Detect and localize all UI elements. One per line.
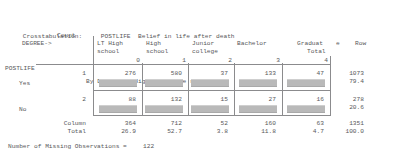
cell-r1-c2-redaction-bar bbox=[191, 105, 229, 113]
row-total-header-line2: Total bbox=[307, 48, 326, 56]
cell-r1-c3-count: 27 bbox=[240, 96, 276, 103]
column-variable-arrow-label: DEGREE-> bbox=[22, 40, 52, 47]
column-header-2-code: 2 bbox=[210, 57, 232, 64]
column-total-c2-percent: 3.8 bbox=[192, 128, 228, 135]
cell-r0-c4-count: 47 bbox=[288, 70, 324, 77]
row-1-code: 2 bbox=[60, 96, 86, 103]
row-variable-name: POSTLIFE bbox=[101, 33, 131, 40]
column-header-1-line1: High bbox=[146, 40, 161, 48]
column-total-label-line1: Column bbox=[40, 120, 86, 127]
cell-r0-c1-redaction-bar bbox=[145, 79, 183, 87]
column-total-c2-count: 52 bbox=[192, 120, 228, 127]
cell-r1-c1-count: 132 bbox=[146, 96, 182, 103]
row-variable-stub-label: POSTLIFE bbox=[5, 65, 35, 72]
column-total-c4-percent: 4.7 bbox=[288, 128, 324, 135]
column-total-c4-count: 63 bbox=[288, 120, 324, 127]
column-header-1-line2: school bbox=[146, 48, 168, 56]
table-hline-row2 bbox=[93, 115, 330, 116]
table-vline-stub bbox=[93, 36, 94, 116]
missing-observations-label: Number of Missing Observations = bbox=[8, 143, 127, 150]
column-total-c1-percent: 52.7 bbox=[146, 128, 182, 135]
cell-r0-c0-redaction-bar bbox=[99, 79, 137, 87]
row-1-total: 278 bbox=[336, 96, 364, 103]
cell-r1-c0-count: 88 bbox=[100, 96, 136, 103]
column-header-4-code: 4 bbox=[306, 57, 328, 64]
cell-r1-c4-redaction-bar bbox=[287, 105, 325, 113]
cell-r1-c4-count: 16 bbox=[288, 96, 324, 103]
column-header-2-line2: college bbox=[192, 48, 218, 56]
row-1-label: No bbox=[19, 106, 26, 113]
cell-r0-c4-redaction-bar bbox=[287, 79, 325, 87]
cell-r1-c2-count: 15 bbox=[192, 96, 228, 103]
column-header-3-code: 3 bbox=[258, 57, 280, 64]
column-header-2-line1: Junior bbox=[192, 40, 214, 48]
grand-total-count: 1351 bbox=[334, 120, 364, 127]
row-total-header-line1: Row bbox=[355, 40, 366, 48]
column-header-0-line1: LT High bbox=[97, 40, 123, 48]
grand-total-percent: 100.0 bbox=[334, 128, 364, 135]
count-label: Count bbox=[57, 32, 76, 39]
row-variable-description: Belief in life after death bbox=[138, 33, 235, 40]
column-total-c3-count: 160 bbox=[240, 120, 276, 127]
cell-r1-c1-redaction-bar bbox=[145, 105, 183, 113]
missing-observations-value: 122 bbox=[143, 143, 154, 150]
cell-r0-c3-count: 133 bbox=[240, 70, 276, 77]
cell-r0-c0-count: 276 bbox=[100, 70, 136, 77]
column-total-c1-count: 712 bbox=[146, 120, 182, 127]
column-total-c0-count: 364 bbox=[100, 120, 136, 127]
cell-r1-c3-redaction-bar bbox=[239, 105, 277, 113]
table-hline-row1 bbox=[93, 90, 330, 91]
row-1-percent: 20.6 bbox=[336, 104, 364, 111]
row-0-percent: 79.4 bbox=[336, 78, 364, 85]
cell-r0-c1-count: 580 bbox=[146, 70, 182, 77]
column-header-4-trailing: e bbox=[336, 40, 340, 48]
cell-r0-c3-redaction-bar bbox=[239, 79, 277, 87]
row-0-label: Yes bbox=[19, 80, 30, 87]
column-header-4-line1: Graduat bbox=[297, 40, 323, 48]
column-header-0-code: 0 bbox=[118, 57, 140, 64]
column-header-1-code: 1 bbox=[164, 57, 186, 64]
cell-r0-c2-count: 37 bbox=[192, 70, 228, 77]
column-header-3-line1: Bachelor bbox=[237, 40, 267, 48]
table-hline-header bbox=[36, 64, 330, 65]
column-total-c3-percent: 11.8 bbox=[240, 128, 276, 135]
table-vline-col4 bbox=[330, 56, 331, 116]
column-total-label-line2: Total bbox=[40, 128, 86, 135]
row-0-total: 1073 bbox=[336, 70, 364, 77]
row-0-code: 1 bbox=[60, 70, 86, 77]
column-header-0-line2: school bbox=[97, 48, 119, 56]
column-total-c0-percent: 26.9 bbox=[100, 128, 136, 135]
cell-r1-c0-redaction-bar bbox=[99, 105, 137, 113]
cell-r0-c2-redaction-bar bbox=[191, 79, 229, 87]
